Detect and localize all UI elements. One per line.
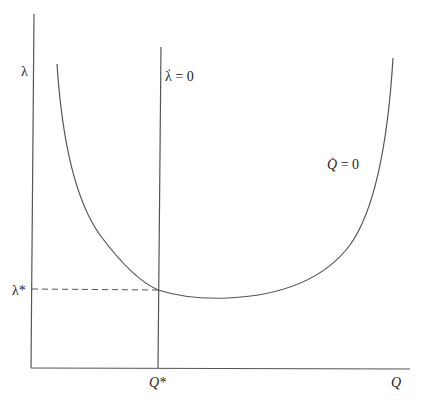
x-axis-label: Q [391,376,401,390]
phase-diagram-canvas [0,0,422,400]
lambda-star-dashed-line [32,289,158,290]
lambda-dot-zero-line [158,47,161,368]
time-derivative-dot: · [167,65,171,75]
equals-zero: = 0 [172,69,194,84]
equals-zero: = 0 [337,157,359,172]
lambda-dot-zero-label: ·λ = 0 [165,70,194,84]
q-star-label: Q* [149,376,166,390]
q-dot-zero-label: ·Q = 0 [327,158,359,172]
lambda-star-label: λ* [12,284,26,298]
y-axis-label: λ [21,65,28,79]
q-dot-zero-curve [57,58,393,298]
time-derivative-dot: · [331,153,335,163]
y-axis [31,14,34,368]
x-axis [31,368,410,369]
